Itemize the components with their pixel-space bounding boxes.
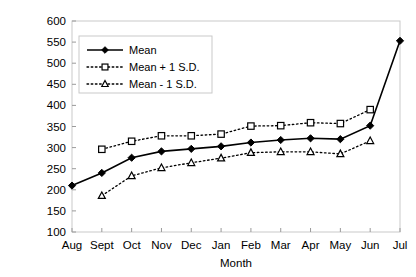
data-point-marker [218, 131, 224, 137]
y-tick-label: 300 [47, 142, 66, 154]
y-tick-label: 500 [47, 57, 66, 69]
x-tick-label: Mar [271, 239, 291, 251]
x-tick-label: Sept [90, 239, 114, 251]
x-tick-label: Feb [241, 239, 261, 251]
legend-item-label: Mean [129, 44, 157, 56]
y-tick-label: 250 [47, 163, 66, 175]
x-tick-label: Nov [151, 239, 172, 251]
y-tick-label: 350 [47, 121, 66, 133]
data-point-marker [158, 133, 164, 139]
y-tick-label: 600 [47, 15, 66, 27]
y-tick-label: 200 [47, 184, 66, 196]
x-tick-label: Jan [212, 239, 231, 251]
y-tick-label: 150 [47, 205, 66, 217]
y-tick-label: 550 [47, 36, 66, 48]
x-tick-label: Jul [393, 239, 408, 251]
data-point-marker [278, 122, 284, 128]
y-tick-label: 400 [47, 99, 66, 111]
x-tick-label: Apr [302, 239, 320, 251]
data-point-marker [367, 106, 373, 112]
data-point-marker [102, 64, 108, 70]
data-point-marker [128, 138, 134, 144]
legend-item-label: Mean + 1 S.D. [129, 61, 200, 73]
legend-item-label: Mean - 1 S.D. [129, 78, 197, 90]
data-point-marker [188, 133, 194, 139]
data-point-marker [99, 146, 105, 152]
x-tick-label: May [329, 239, 351, 251]
x-tick-label: Dec [181, 239, 202, 251]
chart-plot: 100150200250300350400450500550600 AugSep… [0, 0, 416, 277]
y-tick-label: 450 [47, 78, 66, 90]
data-point-marker [307, 120, 313, 126]
chart-legend: MeanMean + 1 S.D.Mean - 1 S.D. [79, 36, 212, 93]
x-tick-label: Oct [123, 239, 142, 251]
x-axis-title: Month [220, 257, 252, 269]
data-point-marker [337, 120, 343, 126]
x-tick-label: Aug [62, 239, 82, 251]
chart-figure: Snow density (kg m-3) 100150200250300350… [0, 0, 416, 277]
y-tick-label: 100 [47, 226, 66, 238]
data-point-marker [248, 123, 254, 129]
x-tick-label: Jun [361, 239, 380, 251]
